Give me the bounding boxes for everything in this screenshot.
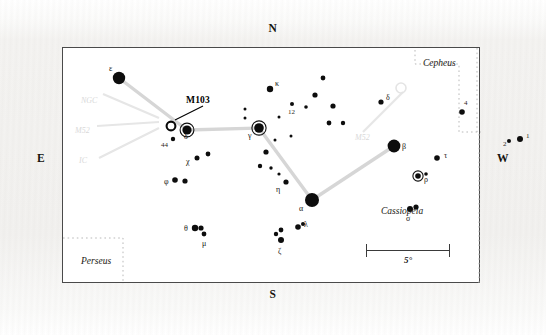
star-n1 <box>517 136 523 142</box>
compass-west: W <box>492 152 514 164</box>
star-label-n1: 1 <box>526 133 530 140</box>
compass-east: E <box>30 152 52 164</box>
compass-north: N <box>0 22 546 34</box>
scale-bar-rule <box>366 250 450 251</box>
chart-frame: εδγαβκχφηθμλζρτσ4412δ412 CepheusCassiope… <box>62 47 480 283</box>
scale-bar: 5° <box>366 244 450 266</box>
star-chart-page: N S E W εδγαβκχφηθμλζρτσ4412δ412 Cepheus… <box>0 0 546 335</box>
star-n2 <box>507 139 511 143</box>
m103-label: M103 <box>186 95 210 105</box>
scale-bar-label: 5° <box>366 255 450 265</box>
compass-south: S <box>0 288 546 300</box>
star-label-n2: 2 <box>503 141 507 148</box>
chart-plot-area: εδγαβκχφηθμλζρτσ4412δ412 CepheusCassiope… <box>63 48 479 282</box>
